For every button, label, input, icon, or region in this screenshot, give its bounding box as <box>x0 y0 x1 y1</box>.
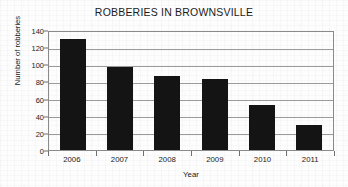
y-axis-tick-labels: 020406080100120140 <box>22 31 44 151</box>
bar-2007 <box>107 67 133 150</box>
chart-title: ROBBERIES IN BROWNSVILLE <box>0 6 348 18</box>
x-tick-label: 2011 <box>286 155 334 164</box>
x-tick-label: 2010 <box>239 155 287 164</box>
bar-slot <box>238 32 285 150</box>
y-tick-label: 100 <box>31 61 44 70</box>
bar-2010 <box>249 105 275 150</box>
y-axis-title: Number of robberies <box>13 0 22 106</box>
bar-series <box>49 32 333 150</box>
bar-slot <box>286 32 333 150</box>
bar-2006 <box>60 39 86 150</box>
bar-slot <box>191 32 238 150</box>
x-tick-mark <box>334 151 335 156</box>
bar-2008 <box>154 76 180 150</box>
x-tick-label: 2008 <box>143 155 191 164</box>
x-tick-label: 2009 <box>191 155 239 164</box>
x-tick-label: 2006 <box>48 155 96 164</box>
y-tick-label: 40 <box>36 112 44 121</box>
bar-2011 <box>296 125 322 150</box>
chart-screenshot: ROBBERIES IN BROWNSVILLE 020406080100120… <box>0 0 348 187</box>
bar-2009 <box>202 79 228 150</box>
plot-area <box>48 31 334 151</box>
x-tick-label: 2007 <box>96 155 144 164</box>
bar-slot <box>49 32 96 150</box>
x-axis-title: Year <box>48 170 334 179</box>
y-tick-label: 80 <box>36 78 44 87</box>
y-tick-label: 60 <box>36 95 44 104</box>
y-tick-label: 140 <box>31 27 44 36</box>
y-tick-label: 120 <box>31 44 44 53</box>
x-axis-tick-labels: 200620072008200920102011 <box>48 155 334 164</box>
y-tick-label: 20 <box>36 129 44 138</box>
bar-slot <box>144 32 191 150</box>
bar-slot <box>96 32 143 150</box>
